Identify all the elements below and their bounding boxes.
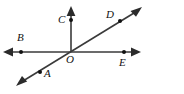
point-dot-a: [38, 70, 42, 74]
diagonal-lower-left-arrowhead: [16, 76, 27, 86]
point-label-o: O: [66, 54, 74, 65]
diagonal-line: [16, 7, 142, 86]
horizontal-right-arrowhead: [131, 48, 141, 57]
horizontal-left-arrowhead: [3, 48, 13, 57]
point-label-c: C: [58, 14, 65, 25]
point-dot-e: [122, 50, 126, 54]
point-label-b: B: [17, 32, 24, 43]
point-label-e: E: [119, 57, 126, 68]
geometry-canvas: [0, 0, 184, 94]
point-label-d: D: [106, 9, 114, 20]
point-dot-c: [69, 18, 73, 22]
point-dot-b: [19, 50, 23, 54]
point-dot-d: [118, 19, 122, 23]
diagonal-upper-right-arrowhead: [131, 7, 143, 17]
geometry-figure: A B C D E O: [0, 0, 184, 94]
vertical-top-arrowhead: [67, 6, 76, 16]
vertical-ray: [67, 6, 76, 52]
point-label-a: A: [44, 68, 51, 79]
